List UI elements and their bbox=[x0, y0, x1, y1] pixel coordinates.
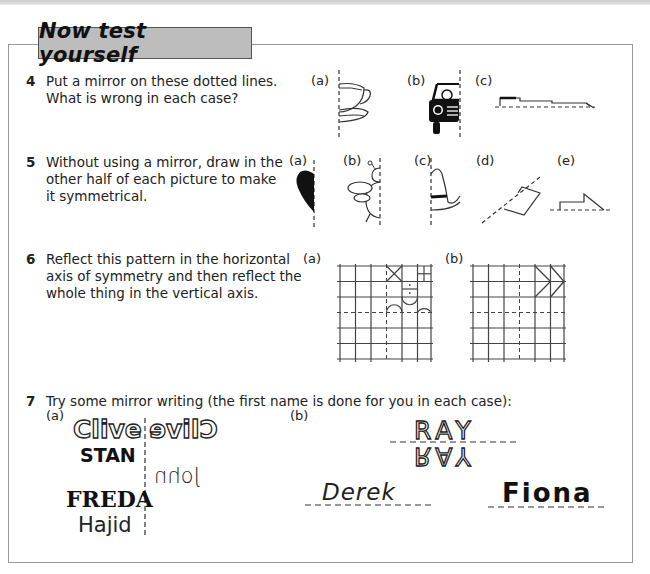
grid-b bbox=[468, 262, 568, 368]
question-4-number: 4 bbox=[26, 73, 35, 89]
question-5-text: Without using a mirror, draw in the othe… bbox=[46, 154, 283, 205]
q6-label-b: (b) bbox=[445, 251, 463, 266]
q4-label-c: (c) bbox=[475, 73, 492, 88]
question-4-line-1: Put a mirror on these dotted lines. bbox=[46, 73, 277, 90]
q7-label-a: (a) bbox=[46, 408, 64, 423]
name-stan: STAN bbox=[80, 446, 136, 465]
name-ray-mirrored: RAY bbox=[414, 444, 476, 469]
name-clive-mirrored: Clive bbox=[149, 417, 218, 442]
q5-label-e: (e) bbox=[557, 153, 575, 168]
grid-a bbox=[335, 262, 435, 368]
q7-label-b: (b) bbox=[290, 408, 308, 423]
name-fiona: Fiona bbox=[502, 480, 593, 506]
q7a-mirror-line bbox=[143, 418, 147, 538]
question-6-number: 6 bbox=[26, 251, 35, 267]
diagonal-shape-icon bbox=[478, 175, 558, 225]
question-5-line-1: Without using a mirror, draw in the bbox=[46, 154, 283, 171]
question-6-line-2: axis of symmetry and then reflect the bbox=[46, 268, 302, 285]
question-7-number: 7 bbox=[26, 393, 35, 409]
flat-shape-icon bbox=[490, 95, 600, 115]
car-icon bbox=[425, 70, 465, 140]
name-derek: Derek bbox=[322, 481, 396, 504]
q4-label-b: (b) bbox=[407, 73, 425, 88]
teacup-icon bbox=[330, 70, 380, 140]
name-john-mirrored: John bbox=[154, 466, 200, 487]
name-hajid: Hajid bbox=[78, 515, 132, 536]
question-5-line-3: it symmetrical. bbox=[46, 188, 283, 205]
question-6-line-3: whole thing in the vertical axis. bbox=[46, 285, 302, 302]
q6-label-a: (a) bbox=[303, 251, 321, 266]
question-4-text: Put a mirror on these dotted lines. What… bbox=[46, 73, 277, 107]
step-shape-icon bbox=[548, 190, 618, 215]
question-6-text: Reflect this pattern in the horizontal a… bbox=[46, 251, 302, 302]
page-top-edge bbox=[0, 0, 650, 5]
question-7-text: Try some mirror writing (the first name … bbox=[46, 393, 512, 410]
question-5-line-2: other half of each picture to make bbox=[46, 171, 283, 188]
name-clive: Clive bbox=[73, 417, 142, 442]
question-4-line-2: What is wrong in each case? bbox=[46, 90, 277, 107]
half-heart-icon bbox=[290, 160, 320, 230]
q4-label-a: (a) bbox=[311, 73, 329, 88]
question-7-line-1: Try some mirror writing (the first name … bbox=[46, 393, 512, 410]
q7b-derek-mirror-line bbox=[305, 503, 437, 507]
question-6-line-1: Reflect this pattern in the horizontal bbox=[46, 251, 302, 268]
section-title-box: Now test yourself bbox=[38, 27, 252, 59]
half-bee-icon bbox=[340, 158, 390, 230]
question-5-number: 5 bbox=[26, 154, 35, 170]
name-freda: FREDA bbox=[66, 488, 153, 510]
q7b-fiona-mirror-line bbox=[488, 505, 610, 509]
section-title: Now test yourself bbox=[39, 19, 251, 67]
